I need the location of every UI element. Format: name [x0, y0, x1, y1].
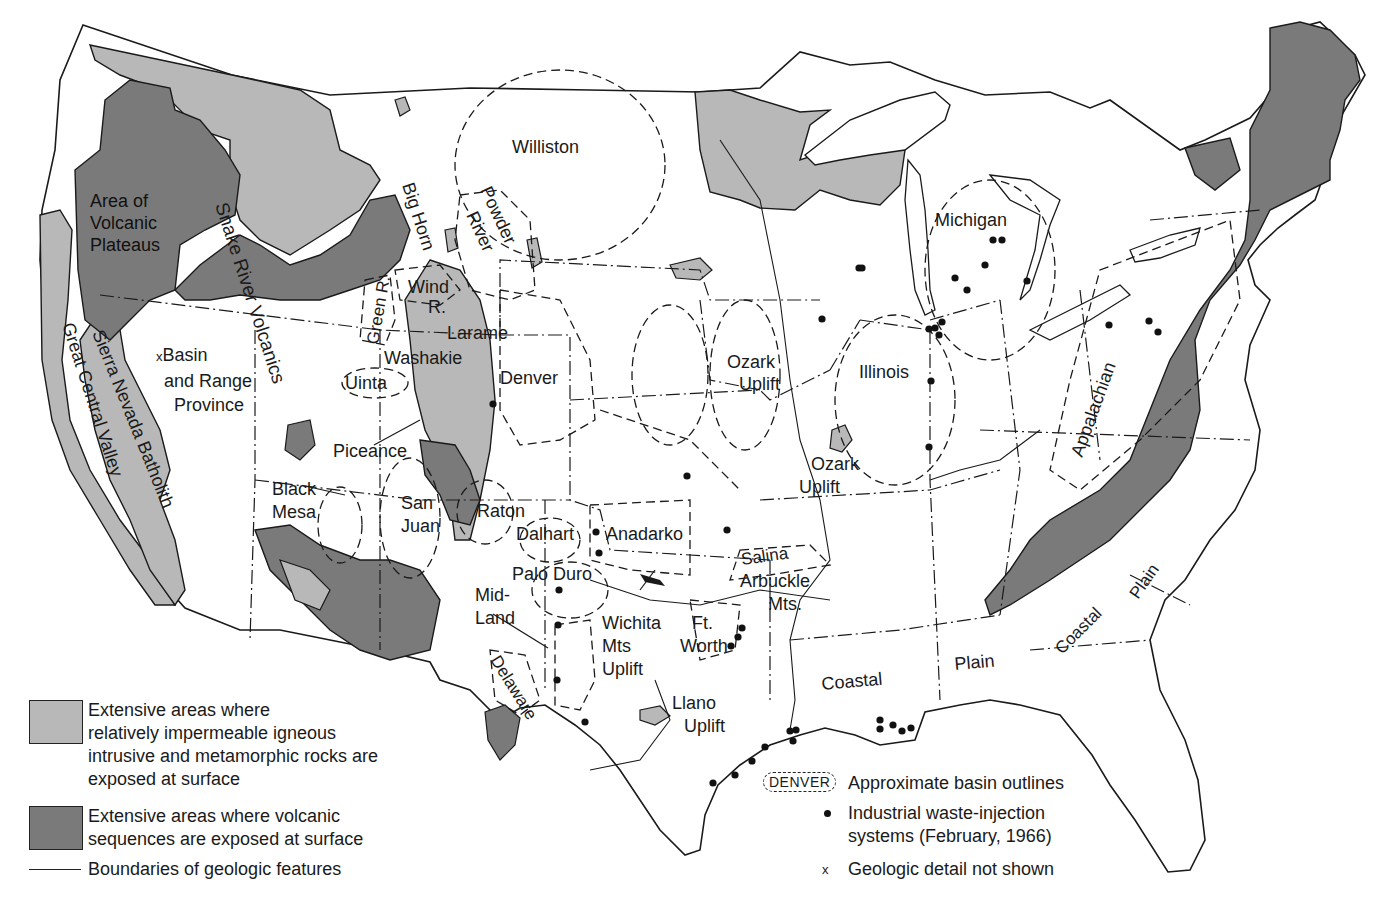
injection-site-dot [727, 642, 734, 649]
label-dalhart: Dalhart [516, 523, 574, 545]
injection-site-dot [738, 624, 745, 631]
label-palo-duro: Palo Duro [512, 563, 592, 585]
injection-site-dot [927, 377, 934, 384]
injection-site-dot [889, 721, 896, 728]
injection-site-dot [989, 236, 996, 243]
legend-symbol-basin-outline: DENVER [763, 772, 836, 792]
injection-site-dot [489, 400, 496, 407]
injection-site-dot [951, 274, 958, 281]
injection-site-dot [553, 676, 560, 683]
injection-site-dot [723, 526, 730, 533]
x-mark-icon: x [822, 858, 829, 881]
trans-pecos-volcanics [485, 705, 520, 760]
legend-item-igneous: Extensive areas where relatively imperme… [88, 699, 378, 791]
dot-icon [824, 810, 831, 817]
injection-site-dot [925, 325, 932, 332]
legend-swatch-volcanic [29, 806, 83, 850]
label-midland: Mid- Land [475, 584, 515, 630]
label-denver: Denver [500, 367, 558, 389]
legend-item-boundaries: Boundaries of geologic features [88, 858, 341, 881]
label-uinta: Uinta [345, 372, 387, 394]
injection-site-dot [935, 331, 942, 338]
injection-site-dot [898, 727, 905, 734]
label-raton: Raton [477, 500, 525, 522]
label-wichita-mts-uplift: Wichita Mts Uplift [602, 612, 661, 681]
injection-site-dot [555, 586, 562, 593]
label-arbuckle-mts: Arbuckle Mts. [740, 570, 810, 616]
legend-item-volcanic: Extensive areas where volcanic sequences… [88, 805, 363, 851]
legend-swatch-igneous [29, 700, 83, 744]
injection-site-dot [709, 779, 716, 786]
label-anadarko: Anadarko [606, 523, 683, 545]
injection-site-dot [1145, 317, 1152, 324]
label-volcanic-plateaus: Area of Volcanic Plateaus [90, 190, 160, 256]
label-basin-range: xBasin and Range Province [156, 343, 252, 417]
label-llano-uplift: Llano Uplift [672, 692, 725, 738]
label-illinois: Illinois [859, 361, 909, 383]
injection-site-dot [761, 743, 768, 750]
legend-item-injection-systems: Industrial waste-injection systems (Febr… [848, 802, 1052, 848]
label-black-mesa: Black Mesa [272, 478, 316, 524]
injection-site-dot [931, 324, 938, 331]
label-piceance: Piceance [333, 440, 407, 462]
injection-site-dot [786, 727, 793, 734]
legend-line-boundary [29, 869, 81, 870]
label-williston: Williston [512, 136, 579, 158]
injection-site-dot [792, 726, 799, 733]
injection-site-dot [963, 286, 970, 293]
injection-site-dot [876, 716, 883, 723]
injection-site-dot [734, 633, 741, 640]
injection-site-dot [1023, 277, 1030, 284]
label-laramie: Larame [447, 322, 508, 344]
injection-site-dot [925, 443, 932, 450]
injection-site-dot [554, 621, 561, 628]
geologic-map: Snake River Volcanics Great Central Vall… [0, 0, 1389, 906]
injection-site-dot [1154, 328, 1161, 335]
injection-site-dot [981, 261, 988, 268]
label-ft-worth: Ft. Worth [680, 612, 728, 658]
injection-site-dot [1105, 321, 1112, 328]
legend-item-geologic-detail: Geologic detail not shown [848, 858, 1054, 881]
injection-site-dot [592, 528, 599, 535]
label-washakie: Washakie [384, 347, 462, 369]
legend-item-basin-outlines: Approximate basin outlines [848, 772, 1064, 795]
label-plain-gulf: Plain [954, 651, 996, 674]
injection-site-dot [998, 236, 1005, 243]
injection-site-dot [731, 771, 738, 778]
injection-site-dot [876, 725, 883, 732]
label-ozark-uplift: Ozark Uplift [799, 453, 859, 499]
injection-site-dot [789, 737, 796, 744]
injection-site-dot [938, 318, 945, 325]
label-michigan: Michigan [935, 209, 1007, 231]
injection-site-dot [818, 315, 825, 322]
injection-site-dot [683, 472, 690, 479]
label-san-juan: San Juan [401, 492, 440, 538]
injection-site-dot [907, 724, 914, 731]
label-wind-river: Wind R. [408, 277, 449, 317]
injection-site-dot [748, 757, 755, 764]
injection-site-dot [858, 264, 865, 271]
label-forest-city: Ozark Uplift [727, 351, 780, 395]
injection-site-dot [581, 718, 588, 725]
injection-site-dot [595, 549, 602, 556]
